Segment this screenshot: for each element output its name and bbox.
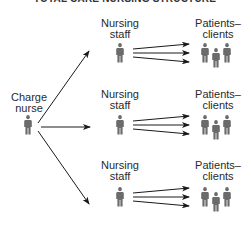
- patients-person-icons-3: [201, 187, 231, 211]
- charge-to-staff-arrows: [38, 51, 90, 204]
- staff-to-patients-arrows-2: [133, 116, 189, 134]
- staff-to-patients-arrows-3: [133, 188, 189, 206]
- staff-to-patients-arrows-1: [133, 44, 189, 62]
- patients-person-icons-1: [201, 43, 231, 67]
- arrow-to-staff-1: [38, 51, 89, 123]
- patients-person-icons-2: [201, 115, 231, 139]
- nursing-staff-person-icon-1: [116, 43, 124, 62]
- arrow-to-staff-3: [38, 131, 89, 204]
- nursing-staff-person-icon-2: [116, 115, 124, 134]
- nursing-staff-person-icon-3: [116, 187, 124, 206]
- charge-nurse-person-icon: [24, 115, 32, 134]
- structure-diagram: [0, 0, 250, 227]
